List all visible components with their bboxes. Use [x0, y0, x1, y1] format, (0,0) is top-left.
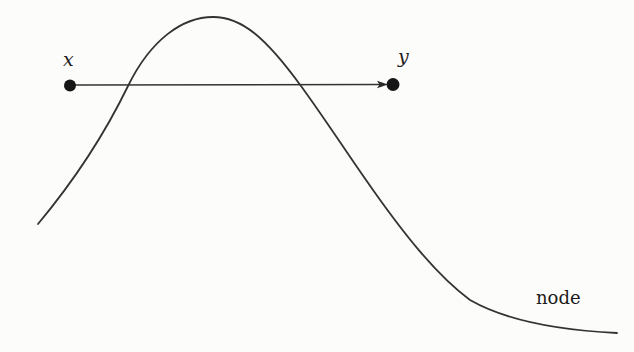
- node-diagram-svg: x y node: [0, 0, 634, 352]
- diagram-canvas: x y node: [0, 0, 634, 352]
- node-x-label: x: [63, 48, 74, 70]
- node-y-dot: [387, 78, 400, 91]
- node-curve: [38, 17, 617, 333]
- node-y-label: y: [397, 45, 409, 67]
- curve-label: node: [536, 287, 581, 308]
- node-x-dot: [64, 80, 76, 92]
- edge-arrow-line: [74, 85, 382, 86]
